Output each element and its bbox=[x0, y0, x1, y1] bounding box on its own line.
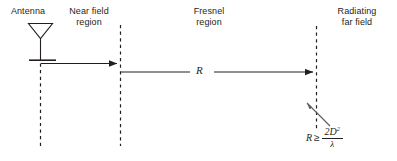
formula-leader-arrow bbox=[307, 103, 330, 126]
antenna-field-regions-diagram: Antenna Near field region Fresnel region… bbox=[0, 0, 397, 161]
diagram-vector-layer bbox=[0, 0, 397, 161]
antenna-triangle-icon bbox=[29, 24, 57, 61]
